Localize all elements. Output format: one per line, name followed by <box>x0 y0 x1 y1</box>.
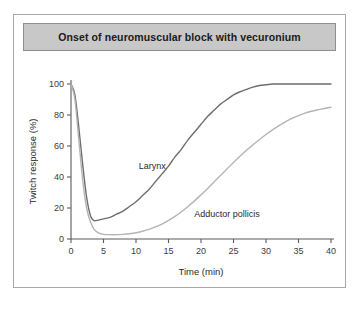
x-tick-label: 40 <box>326 246 336 256</box>
x-tick-label: 25 <box>228 246 238 256</box>
y-tick-label: 100 <box>49 79 64 89</box>
x-tick-label: 5 <box>101 246 106 256</box>
y-tick-label: 60 <box>54 141 64 151</box>
line-chart: 0204060801000510152025303540 LarynxAdduc… <box>14 15 347 289</box>
x-tick-label: 35 <box>293 246 303 256</box>
y-axis-title: Twitch response (%) <box>27 118 38 204</box>
x-tick-label: 15 <box>163 246 173 256</box>
x-tick-label: 30 <box>261 246 271 256</box>
y-tick-label: 80 <box>54 110 64 120</box>
x-tick-label: 10 <box>131 246 141 256</box>
figure-panel: Onset of neuromuscular block with vecuro… <box>13 14 346 288</box>
y-tick-label: 40 <box>54 172 64 182</box>
y-tick-label: 0 <box>59 234 64 244</box>
x-tick-label: 0 <box>68 246 73 256</box>
series-label-adductor-pollicis: Adductor pollicis <box>194 209 260 219</box>
series-label-larynx: Larynx <box>139 161 167 171</box>
series-line-larynx <box>71 84 331 221</box>
axes: 0204060801000510152025303540 <box>49 79 336 256</box>
plot-area: 0204060801000510152025303540 LarynxAdduc… <box>14 15 347 289</box>
x-axis-title: Time (min) <box>178 266 223 277</box>
series-annotations: LarynxAdductor pollicis <box>139 161 261 219</box>
y-tick-label: 20 <box>54 203 64 213</box>
x-tick-label: 20 <box>196 246 206 256</box>
